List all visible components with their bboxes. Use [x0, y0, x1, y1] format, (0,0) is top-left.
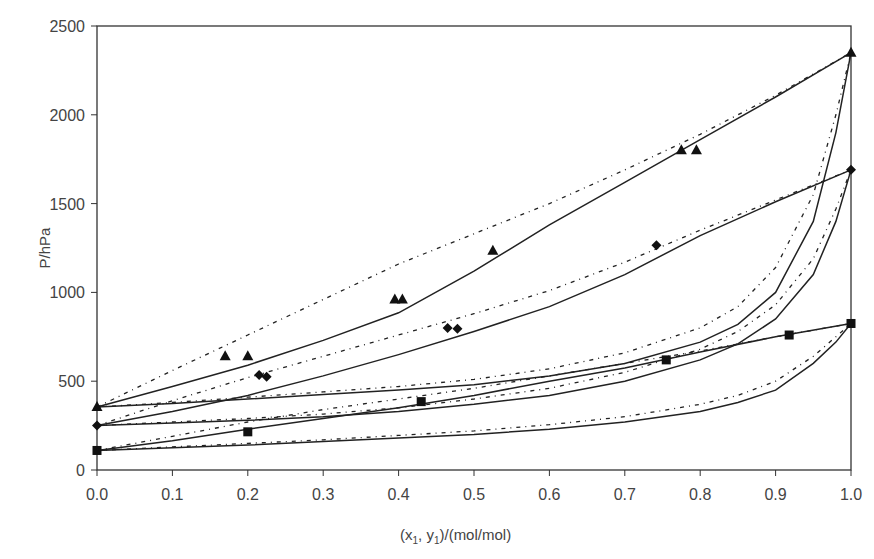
x-tick-label: 0.6 [538, 486, 560, 503]
x-tick-label: 0.9 [764, 486, 786, 503]
model-curves [97, 53, 851, 451]
x-tick-label: 0.5 [463, 486, 485, 503]
diamond-marker [651, 240, 661, 250]
triangle-marker [691, 144, 702, 154]
x-tick-label: 1.0 [840, 486, 862, 503]
bubble-curve-solid [97, 170, 851, 426]
dew-curve-dotted [97, 53, 851, 407]
triangle-marker [242, 350, 253, 360]
square-marker [93, 446, 102, 455]
square-marker [847, 319, 856, 328]
x-tick-label: 0.7 [614, 486, 636, 503]
dew-curve-dotted [97, 324, 851, 451]
diamond-marker [846, 165, 856, 175]
x-tick-label: 0.0 [86, 486, 108, 503]
y-tick-label: 500 [58, 373, 85, 390]
y-tick-label: 2000 [49, 107, 85, 124]
bubble-curve-dotted [97, 170, 851, 426]
vle-pressure-composition-chart: 05001000150020002500 0.00.10.20.30.40.50… [0, 0, 874, 559]
triangle-marker [220, 350, 231, 360]
x-axis: 0.00.10.20.30.40.50.60.70.80.91.0 [86, 470, 862, 503]
y-axis: 05001000150020002500 [49, 18, 97, 479]
diamond-marker [92, 421, 102, 431]
diamond-marker [254, 370, 264, 380]
x-tick-label: 0.4 [387, 486, 409, 503]
y-tick-label: 2500 [49, 18, 85, 35]
y-axis-title: P/hPa [36, 227, 53, 269]
square-marker [417, 397, 426, 406]
bubble-curve-dotted [97, 53, 851, 407]
x-axis-title: (x1, y1)/(mol/mol) [400, 526, 511, 546]
x-tick-label: 0.3 [312, 486, 334, 503]
dew-curve-solid [97, 170, 851, 426]
triangle-marker [487, 245, 498, 255]
triangle-marker [676, 144, 687, 154]
y-tick-label: 0 [76, 462, 85, 479]
x-tick-label: 0.8 [689, 486, 711, 503]
square-marker [785, 331, 794, 340]
y-tick-label: 1000 [49, 284, 85, 301]
diamond-marker [452, 324, 462, 334]
square-marker [662, 355, 671, 364]
triangle-marker [397, 294, 408, 304]
dew-curve-solid [97, 53, 851, 407]
x-tick-label: 0.2 [237, 486, 259, 503]
y-tick-label: 1500 [49, 196, 85, 213]
triangle-marker [846, 47, 857, 57]
x-tick-label: 0.1 [161, 486, 183, 503]
square-marker [243, 427, 252, 436]
bubble-curve-solid [97, 53, 851, 407]
dew-curve-dotted [97, 170, 851, 426]
diamond-marker [443, 323, 453, 333]
